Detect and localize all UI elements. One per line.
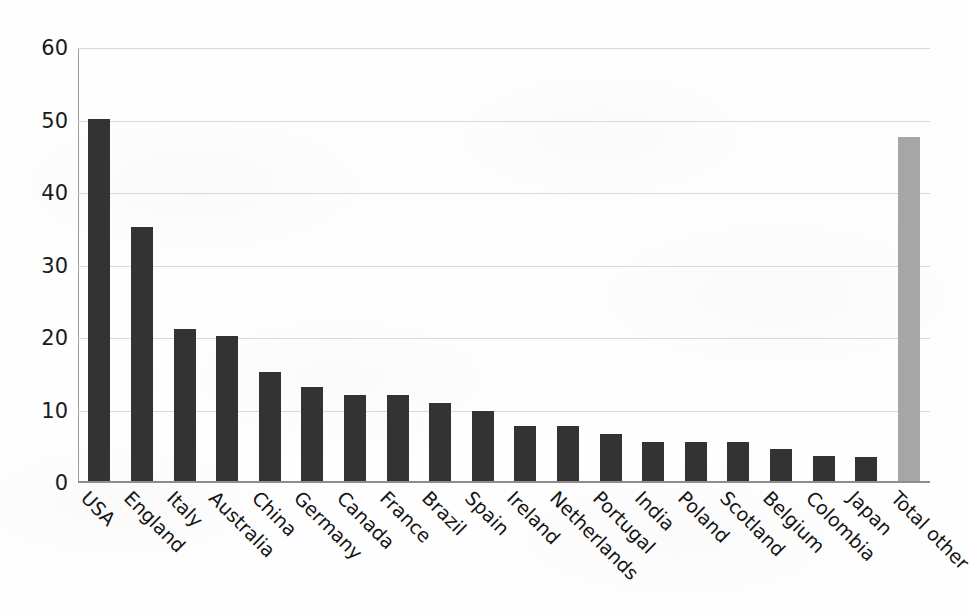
bar <box>685 442 707 481</box>
bar <box>557 426 579 481</box>
bar <box>727 442 749 481</box>
bar <box>898 137 920 481</box>
y-axis-tick-label: 60 <box>22 38 68 59</box>
bar <box>770 449 792 481</box>
plot-area <box>78 48 930 483</box>
y-axis-tick-label: 30 <box>22 255 68 276</box>
bar <box>642 442 664 481</box>
x-axis-tick-label: Spain <box>461 488 512 539</box>
y-axis-tick-label: 20 <box>22 328 68 349</box>
bar-series <box>78 48 930 481</box>
bar <box>429 403 451 481</box>
x-axis-category-labels: USAEnglandItalyAustraliaChinaGermanyCana… <box>78 488 930 612</box>
bar <box>514 426 536 481</box>
x-axis-tick-label: USA <box>78 488 119 529</box>
chart-page: 0102030405060 USAEnglandItalyAustraliaCh… <box>0 0 969 612</box>
bar <box>259 372 281 481</box>
bar <box>88 119 110 482</box>
x-axis-tick-label: Total other <box>887 488 969 573</box>
bar <box>600 434 622 481</box>
bar <box>131 227 153 481</box>
x-axis-line <box>78 481 930 483</box>
y-axis-tick-label: 50 <box>22 110 68 131</box>
bar <box>216 336 238 481</box>
bar <box>472 411 494 481</box>
bar <box>174 329 196 481</box>
y-axis-tick-labels: 0102030405060 <box>0 48 68 483</box>
bar <box>344 395 366 481</box>
y-axis-tick-label: 0 <box>22 473 68 494</box>
y-axis-tick-label: 40 <box>22 183 68 204</box>
y-axis-tick-label: 10 <box>22 400 68 421</box>
bar <box>387 395 409 481</box>
bar <box>855 457 877 481</box>
bar <box>813 456 835 481</box>
bar <box>301 387 323 481</box>
